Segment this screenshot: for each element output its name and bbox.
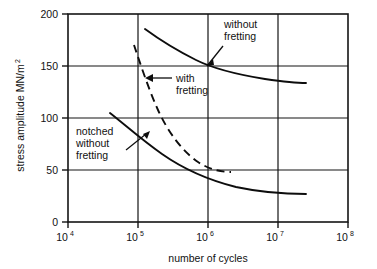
annotation-without-fretting-line2: fretting xyxy=(224,30,256,42)
fatigue-sn-chart: 200 150 100 50 0 10 4 10 5 10 6 10 7 10 … xyxy=(0,0,377,269)
y-axis-title-superscript: 2 xyxy=(14,59,21,63)
chart-figure: 200 150 100 50 0 10 4 10 5 10 6 10 7 10 … xyxy=(0,0,377,269)
ytick-label-200: 200 xyxy=(40,8,58,20)
annotation-without-fretting: without fretting xyxy=(207,18,257,66)
xtick-exp-1e7: 7 xyxy=(280,230,284,237)
xtick-exp-1e8: 8 xyxy=(350,230,354,237)
xtick-base-1e7: 10 xyxy=(266,231,278,243)
xtick-label-1e8: 10 8 xyxy=(336,230,354,243)
xtick-label-1e6: 10 6 xyxy=(196,230,214,243)
y-axis-title-main: stress amplitude MN/m xyxy=(14,64,26,172)
xtick-base-1e8: 10 xyxy=(336,231,348,243)
annotation-notched-arrowhead xyxy=(143,131,150,139)
x-axis-title: number of cycles xyxy=(168,252,247,264)
xtick-base-1e5: 10 xyxy=(126,231,138,243)
xtick-label-1e5: 10 5 xyxy=(126,230,144,243)
curve-with-fretting xyxy=(134,45,231,172)
xtick-exp-1e5: 5 xyxy=(140,230,144,237)
annotation-with-fretting-line1: with xyxy=(175,72,195,84)
ytick-label-50: 50 xyxy=(46,164,58,176)
xtick-base-1e4: 10 xyxy=(56,231,68,243)
y-axis-title: stress amplitude MN/m 2 xyxy=(14,59,26,172)
annotation-notched-line2: without xyxy=(75,137,109,149)
annotation-with-fretting-arrowhead xyxy=(145,74,153,82)
annotation-notched-line1: notched xyxy=(76,125,114,137)
xtick-exp-1e4: 4 xyxy=(70,230,74,237)
annotation-without-fretting-leader xyxy=(207,46,223,66)
xtick-exp-1e6: 6 xyxy=(210,230,214,237)
annotation-with-fretting: with fretting xyxy=(145,72,208,96)
annotation-notched-line3: fretting xyxy=(76,149,108,161)
ytick-label-150: 150 xyxy=(40,60,58,72)
annotation-notched-leader xyxy=(126,134,146,150)
xtick-label-1e7: 10 7 xyxy=(266,230,284,243)
xtick-base-1e6: 10 xyxy=(196,231,208,243)
xtick-label-1e4: 10 4 xyxy=(56,230,74,243)
annotation-notched-without-fretting: notched without fretting xyxy=(75,125,150,161)
annotation-with-fretting-line2: fretting xyxy=(176,84,208,96)
annotation-without-fretting-line1: without xyxy=(223,18,257,30)
ytick-label-0: 0 xyxy=(52,216,58,228)
ytick-label-100: 100 xyxy=(40,112,58,124)
